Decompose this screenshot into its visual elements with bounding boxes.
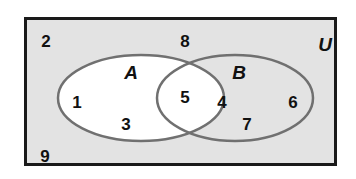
element-2: 2: [41, 33, 50, 50]
universe-label: U: [318, 35, 332, 54]
element-9: 9: [40, 148, 49, 165]
set-a-ellipse: [58, 55, 224, 141]
element-6: 6: [288, 94, 297, 111]
element-4: 4: [217, 94, 226, 111]
element-1: 1: [72, 94, 81, 111]
element-7: 7: [242, 116, 251, 133]
element-8: 8: [180, 33, 189, 50]
element-5: 5: [180, 89, 189, 106]
venn-diagram: [0, 0, 356, 179]
set-a-label: A: [124, 63, 138, 82]
set-b-label: B: [232, 63, 246, 82]
element-3: 3: [121, 116, 130, 133]
